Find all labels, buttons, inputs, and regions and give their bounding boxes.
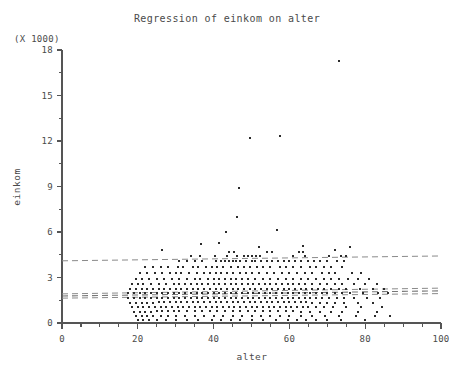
data-point: [256, 266, 258, 268]
data-point: [158, 301, 160, 303]
data-point: [161, 292, 163, 294]
data-point: [266, 272, 268, 274]
data-point: [338, 278, 340, 280]
data-point: [175, 272, 177, 274]
data-point: [277, 301, 279, 303]
data-point: [254, 278, 256, 280]
data-point: [266, 251, 268, 253]
data-point: [330, 266, 332, 268]
data-point: [341, 311, 343, 313]
data-point: [243, 288, 245, 290]
data-point: [137, 306, 139, 308]
data-point: [283, 288, 285, 290]
data-point: [288, 288, 290, 290]
y-tick-label: 18: [42, 45, 53, 55]
data-point: [230, 266, 232, 268]
regression-scatter-plot: Regression of einkom on alter (X 1000) 0…: [0, 0, 454, 372]
data-point: [160, 315, 162, 317]
data-point: [207, 278, 209, 280]
data-point: [247, 283, 249, 285]
data-point: [305, 301, 307, 303]
data-point: [262, 266, 264, 268]
data-point: [243, 266, 245, 268]
data-point: [269, 297, 271, 299]
data-point: [271, 301, 273, 303]
data-point: [178, 310, 180, 312]
data-point: [266, 301, 268, 303]
data-point: [220, 301, 222, 303]
data-point: [165, 283, 167, 285]
data-point: [169, 288, 171, 290]
data-point: [328, 255, 330, 257]
data-point: [218, 278, 220, 280]
data-point: [279, 306, 281, 308]
data-point: [258, 272, 260, 274]
data-point: [237, 288, 239, 290]
data-point: [186, 278, 188, 280]
data-point: [277, 278, 279, 280]
data-point: [186, 301, 188, 303]
data-point: [224, 310, 226, 312]
data-point: [298, 297, 300, 299]
data-point: [161, 297, 163, 299]
data-point: [139, 297, 141, 299]
data-point: [224, 278, 226, 280]
data-point: [178, 260, 180, 262]
data-point: [268, 306, 270, 308]
data-point: [357, 311, 359, 313]
data-point: [238, 187, 240, 189]
y-tick-label: 15: [42, 91, 53, 101]
data-point: [216, 266, 218, 268]
data-point: [387, 292, 389, 294]
data-point: [262, 278, 264, 280]
data-point: [300, 288, 302, 290]
data-point: [355, 315, 357, 317]
data-point: [243, 255, 245, 257]
data-point: [211, 319, 213, 321]
data-point: [376, 311, 378, 313]
data-point: [196, 297, 198, 299]
data-point: [294, 301, 296, 303]
data-point: [175, 319, 177, 321]
data-point: [158, 288, 160, 290]
data-point: [249, 301, 251, 303]
data-point: [287, 292, 289, 294]
data-point: [283, 260, 285, 262]
data-point: [315, 266, 317, 268]
data-point: [154, 272, 156, 274]
data-point: [144, 297, 146, 299]
data-point: [230, 297, 232, 299]
data-point: [222, 306, 224, 308]
data-point: [199, 278, 201, 280]
data-point: [150, 292, 152, 294]
data-point: [239, 310, 241, 312]
data-point: [160, 266, 162, 268]
x-tick-label: 20: [132, 334, 143, 344]
data-point: [141, 302, 143, 304]
data-point: [271, 288, 273, 290]
data-point: [167, 315, 169, 317]
data-point: [144, 266, 146, 268]
data-point: [279, 135, 281, 137]
data-point: [326, 302, 328, 304]
data-point: [209, 272, 211, 274]
data-point: [199, 306, 201, 308]
data-point: [141, 288, 143, 290]
data-point: [144, 292, 146, 294]
data-point: [235, 292, 237, 294]
data-point: [309, 297, 311, 299]
data-point: [258, 297, 260, 299]
data-point: [161, 310, 163, 312]
data-point: [266, 288, 268, 290]
y-tick-label: 3: [47, 273, 53, 283]
data-point: [304, 292, 306, 294]
data-point: [252, 283, 254, 285]
data-point: [353, 283, 355, 285]
data-point: [226, 272, 228, 274]
data-point: [247, 297, 249, 299]
data-point: [203, 272, 205, 274]
data-point: [178, 278, 180, 280]
data-point: [281, 283, 283, 285]
data-point: [341, 266, 343, 268]
data-point: [292, 255, 294, 257]
